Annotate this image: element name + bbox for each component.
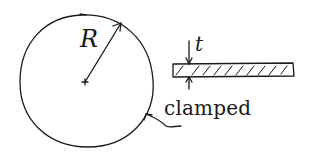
clamped-arrowhead-icon xyxy=(144,114,152,120)
clamped-label: clamped xyxy=(164,96,251,120)
center-point-icon xyxy=(82,79,88,85)
radius-label: R xyxy=(80,25,98,53)
thickness-label: t xyxy=(195,32,203,56)
plate-diagram xyxy=(0,0,316,159)
cross-section-hatching xyxy=(176,66,287,75)
cross-section-outline xyxy=(173,63,294,77)
